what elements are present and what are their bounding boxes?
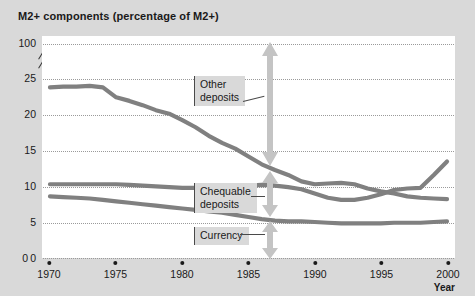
x-tick-dot-icon	[246, 261, 250, 265]
x-tick-label: 1995	[370, 268, 393, 280]
y-tick-label-5: 5	[10, 216, 36, 228]
x-tick-1980: 1980	[170, 258, 193, 280]
band-arrow-chequable-deposits	[261, 170, 279, 218]
annotation-other-deposits: Other deposits	[194, 76, 245, 106]
annotation-other-deposits-line2: deposits	[200, 91, 239, 104]
y-tick-label-15: 15	[10, 144, 36, 156]
x-tick-1970: 1970	[37, 258, 60, 280]
chart-title: M2+ components (percentage of M2+)	[18, 10, 219, 22]
x-tick-1985: 1985	[237, 258, 260, 280]
x-tick-dot-icon	[180, 261, 184, 265]
y-tick-label-25: 25	[10, 72, 36, 84]
x-tick-label: 1985	[237, 268, 260, 280]
x-tick-label: 2000	[436, 268, 459, 280]
x-tick-label: 1990	[303, 268, 326, 280]
annotation-currency: Currency	[194, 227, 249, 245]
band-arrow-other-deposits	[261, 40, 279, 168]
x-tick-label: 1980	[170, 268, 193, 280]
chart-figure: M2+ components (percentage of M2+) 100 2…	[0, 0, 475, 296]
x-tick-label: 1970	[37, 268, 60, 280]
x-tick-dot-icon	[446, 261, 450, 265]
annotation-currency-line1: Currency	[200, 229, 243, 242]
x-axis-title: Year	[434, 282, 455, 293]
x-tick-dot-icon	[379, 261, 383, 265]
x-tick-2000: 2000	[436, 258, 459, 280]
annotation-chequable-deposits-line1: Chequable	[200, 185, 251, 198]
x-tick-1995: 1995	[370, 258, 393, 280]
annotation-chequable-deposits: Chequable deposits	[194, 183, 257, 213]
x-tick-label: 1975	[104, 268, 127, 280]
series-lines	[43, 37, 454, 258]
annotation-other-deposits-line1: Other	[200, 78, 239, 91]
x-tick-dot-icon	[47, 261, 51, 265]
y-tick-label-10: 10	[10, 180, 36, 192]
band-arrow-currency	[261, 220, 279, 260]
annotation-chequable-deposits-line2: deposits	[200, 198, 251, 211]
leader-line-chequable-deposits	[251, 196, 265, 197]
x-tick-1990: 1990	[303, 258, 326, 280]
x-tick-dot-icon	[313, 261, 317, 265]
x-tick-1975: 1975	[104, 258, 127, 280]
x-tick-dot-icon	[113, 261, 117, 265]
x-axis-zero-label: 0	[22, 252, 28, 264]
y-tick-label-20: 20	[10, 108, 36, 120]
y-axis: 100 25 20 15 10 5 0	[6, 36, 36, 258]
plot-area	[42, 36, 455, 258]
y-tick-label-100: 100	[10, 37, 36, 49]
x-axis: 1970197519801985199019952000	[42, 258, 455, 296]
leader-line-currency	[240, 234, 265, 235]
